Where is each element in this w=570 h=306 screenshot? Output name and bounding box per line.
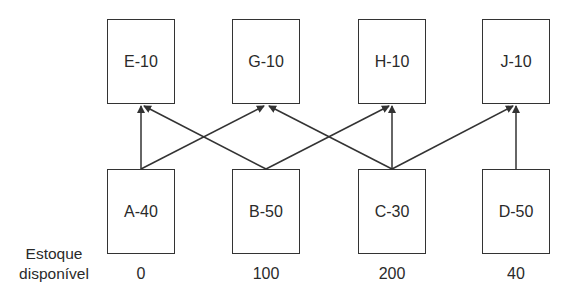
node-g-label: G-10 <box>248 53 284 71</box>
node-h: H-10 <box>358 19 426 104</box>
node-j-label: J-10 <box>500 53 531 71</box>
node-c-label: C-30 <box>375 203 410 221</box>
edge-a-to-g <box>141 106 264 169</box>
node-d: D-50 <box>482 169 550 254</box>
stock-value-d: 40 <box>482 265 550 283</box>
stock-value-c: 200 <box>358 265 426 283</box>
edge-b-to-e <box>144 106 266 169</box>
node-c: C-30 <box>358 169 426 254</box>
stock-row-label-line2: disponível <box>8 264 100 284</box>
node-a: A-40 <box>107 169 175 254</box>
node-a-label: A-40 <box>124 203 158 221</box>
stock-value-a: 0 <box>107 265 175 283</box>
node-h-label: H-10 <box>375 53 410 71</box>
stock-row-label: Estoque disponível <box>8 244 100 284</box>
node-e-label: E-10 <box>124 53 158 71</box>
bom-diagram: E-10 G-10 H-10 J-10 A-40 B-50 C-30 D-50 … <box>0 0 570 306</box>
stock-row-label-line1: Estoque <box>8 244 100 264</box>
node-d-label: D-50 <box>499 203 534 221</box>
node-j: J-10 <box>482 19 550 104</box>
edge-b-to-h <box>266 106 389 169</box>
stock-value-b: 100 <box>232 265 300 283</box>
edge-c-to-g <box>269 106 392 169</box>
node-e: E-10 <box>107 19 175 104</box>
node-g: G-10 <box>232 19 300 104</box>
edge-c-to-j <box>392 106 513 169</box>
node-b: B-50 <box>232 169 300 254</box>
node-b-label: B-50 <box>249 203 283 221</box>
